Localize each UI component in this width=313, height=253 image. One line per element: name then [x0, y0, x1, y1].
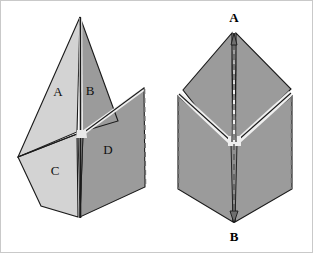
right-figure: A B: [178, 10, 292, 244]
vertex-label-A: A: [229, 10, 239, 25]
panel-label-A: A: [53, 84, 63, 99]
vertex-label-B: B: [230, 229, 239, 244]
panel-label-C: C: [51, 163, 60, 178]
left-figure: A B C D: [18, 17, 146, 218]
panel-label-B: B: [86, 83, 95, 98]
figure-svg: A B C D: [1, 1, 313, 253]
center-junction-highlight: [76, 130, 87, 138]
panel-label-D: D: [103, 142, 112, 157]
panel-B-shape: [80, 17, 118, 132]
figure-canvas: A B C D: [0, 0, 313, 253]
